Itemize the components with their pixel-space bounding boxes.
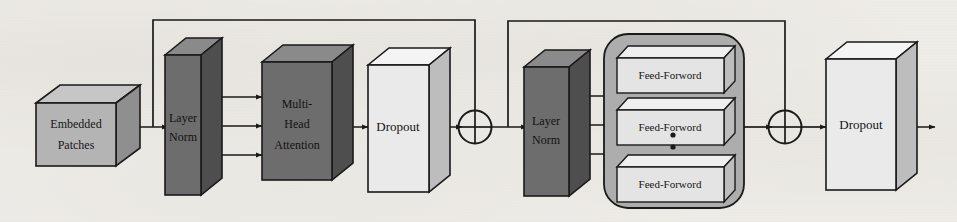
node-add-1[interactable] [459, 111, 492, 144]
node-embedded-patches[interactable]: Embedded Patches [36, 85, 140, 166]
dropout-2-side [896, 42, 917, 190]
node-layer-norm-1[interactable]: Layer Norm [165, 38, 222, 195]
feed-forward-n-label: Feed-Forword [639, 178, 702, 190]
node-layer-norm-2[interactable]: Layer Norm [524, 50, 590, 196]
mha-label-2: Head [284, 117, 309, 131]
dropout-1-label: Dropout [376, 119, 420, 134]
layer-norm-1-face [165, 55, 201, 195]
layer-norm-1-label-2: Norm [169, 130, 198, 144]
mha-label-1: Multi- [282, 97, 313, 111]
ellipsis-dot-1 [670, 132, 675, 137]
layer-norm-2-label-2: Norm [532, 133, 561, 147]
node-dropout-2[interactable]: Dropout [826, 42, 917, 190]
embedded-patches-label-2: Patches [58, 138, 95, 152]
node-dropout-1[interactable]: Dropout [368, 48, 450, 192]
dropout-1-side [429, 48, 450, 192]
mha-side [332, 45, 353, 180]
layer-norm-2-face [524, 67, 569, 196]
feed-forward-2-top [617, 98, 735, 110]
mha-label-3: Attention [274, 138, 319, 152]
node-add-2[interactable] [769, 111, 802, 144]
node-feed-forward-1[interactable]: Feed-Forword [617, 46, 735, 93]
embedded-patches-face [36, 103, 116, 166]
embedded-patches-label-1: Embedded [50, 117, 101, 131]
layer-norm-1-side [201, 38, 222, 195]
feed-forward-1-top [617, 46, 735, 58]
node-multi-head-attention[interactable]: Multi- Head Attention [262, 45, 353, 180]
node-feed-forward-n[interactable]: Feed-Forword [617, 155, 735, 202]
feed-forward-n-top [617, 155, 735, 167]
encoder-block-diagram: Embedded Patches Layer Norm Multi- Head … [0, 0, 957, 222]
ellipsis-dot-2 [670, 144, 675, 149]
dropout-2-label: Dropout [839, 117, 883, 132]
layer-norm-2-side [569, 50, 590, 196]
layer-norm-1-label-1: Layer [169, 111, 197, 125]
feed-forward-2-label: Feed-Forword [639, 121, 702, 133]
node-feed-forward-2[interactable]: Feed-Forword [617, 98, 735, 145]
diagram-canvas: Embedded Patches Layer Norm Multi- Head … [0, 0, 957, 222]
feed-forward-1-label: Feed-Forword [639, 69, 702, 81]
layer-norm-2-label-1: Layer [532, 114, 560, 128]
